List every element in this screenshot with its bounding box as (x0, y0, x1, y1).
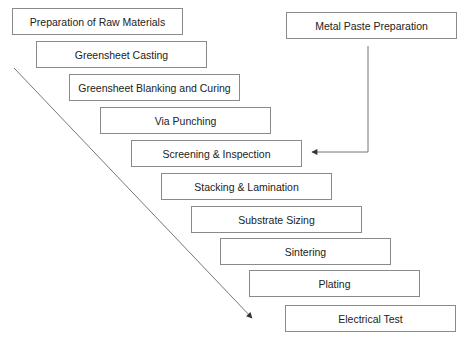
step-greensheet-casting: Greensheet Casting (36, 41, 207, 68)
step-preparation-of-raw-materials: Preparation of Raw Materials (12, 8, 183, 35)
step-plating: Plating (249, 270, 420, 297)
step-greensheet-blanking-and-curing: Greensheet Blanking and Curing (69, 74, 240, 101)
step-substrate-sizing: Substrate Sizing (191, 206, 362, 233)
step-screening-inspection: Screening & Inspection (131, 140, 302, 167)
step-electrical-test: Electrical Test (285, 305, 456, 332)
metal-paste-feed-arrow (312, 46, 368, 152)
step-sintering: Sintering (220, 238, 391, 265)
side-input-metal-paste-preparation: Metal Paste Preparation (286, 12, 457, 39)
step-stacking-lamination: Stacking & Lamination (161, 173, 332, 200)
step-via-punching: Via Punching (100, 107, 271, 134)
